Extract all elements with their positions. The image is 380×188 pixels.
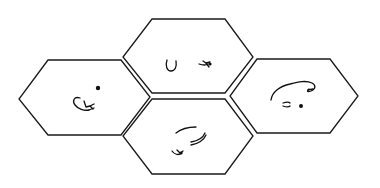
hexagon-right: [230, 59, 358, 133]
hexagon-top-outline: [123, 19, 253, 93]
hexagon-left: [19, 60, 150, 135]
hexagon-right-outline: [230, 59, 358, 133]
dot-mark: [299, 104, 303, 108]
hexagon-top: [123, 19, 253, 93]
hexagon-bottom: [123, 99, 253, 174]
hexagon-diagram: [0, 0, 380, 188]
hexagon-left-outline: [19, 60, 150, 135]
dot-mark: [96, 86, 100, 90]
hexagon-bottom-outline: [123, 99, 253, 174]
